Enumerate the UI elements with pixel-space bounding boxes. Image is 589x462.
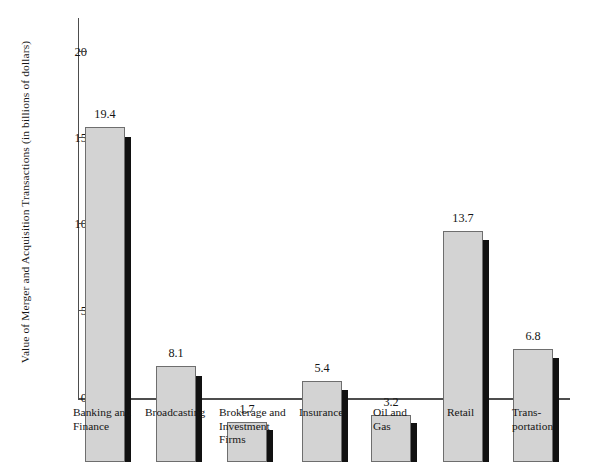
x-category-label-broadcasting: Broadcasting [145,406,225,420]
cat-line: Oil and [373,406,433,420]
bar-face [302,381,342,462]
bar-value-label: 6.8 [511,329,555,344]
cat-line: Insurance [299,406,369,420]
x-category-label-brokerage-and-investment-firms: Brokerage and Investment Firms [219,406,305,447]
x-category-label-transportation: Trans- portation [512,406,584,433]
x-category-label-insurance: Insurance [299,406,369,420]
cat-line: Firms [219,433,305,447]
cat-line: Investment [219,420,305,434]
x-category-label-oil-and-gas: Oil and Gas [373,406,433,433]
bar-value-label: 13.7 [441,211,485,226]
cat-line: Brokerage and [219,406,305,420]
bar-value-label: 19.4 [83,107,127,122]
bar-transportation[interactable]: 6.8 [513,344,561,462]
cat-line: Retail [447,406,507,420]
x-category-label-banking-and-finance: Banking and Finance [73,406,153,433]
cat-line: Broadcasting [145,406,225,420]
cat-line: Finance [73,420,153,434]
bar-retail[interactable]: 13.7 [443,226,491,462]
cat-line: Trans- [512,406,584,420]
plot-area: 19.4 8.1 1.7 5.4 3.2 [0,0,589,462]
cat-line: Gas [373,420,433,434]
x-category-label-retail: Retail [447,406,507,420]
cat-line: Banking and [73,406,153,420]
bar-value-label: 8.1 [154,346,198,361]
cat-line: portation [512,420,584,434]
bar-face [443,231,483,462]
bar-chart: Value of Merger and Acquisition Transact… [0,0,589,462]
bar-value-label: 5.4 [300,361,344,376]
